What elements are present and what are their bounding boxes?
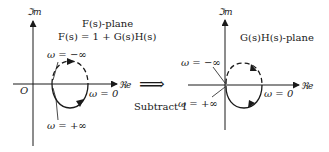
right-re-axis-label: ℜe xyxy=(301,81,313,91)
right-contour-upper-dashed xyxy=(226,63,262,85)
right-contour-lower-solid xyxy=(226,85,262,108)
left-label-omega-pos-inf: ω = +∞ xyxy=(47,120,87,131)
left-re-axis-label: ℜe xyxy=(119,80,131,90)
right-plane: ℑm ℜe G(s)H(s)-plane ω = −∞ ω = +∞ ω = 0 xyxy=(178,7,314,130)
right-leader-pos-inf xyxy=(212,87,225,97)
left-leader-neg-inf xyxy=(53,62,58,80)
right-label-omega-pos-inf: ω = +∞ xyxy=(178,98,218,109)
origin-label: O xyxy=(20,85,28,96)
left-label-omega-neg-inf: ω = −∞ xyxy=(47,49,87,60)
right-plane-title: G(s)H(s)-plane xyxy=(240,32,314,43)
left-contour-lower-solid xyxy=(52,84,88,108)
right-leader-neg-inf xyxy=(213,67,225,83)
left-label-omega-zero: ω = 0 xyxy=(89,88,119,99)
left-plane-title: F(s)-plane xyxy=(82,18,133,29)
right-label-omega-neg-inf: ω = −∞ xyxy=(181,57,221,68)
left-plane: ℑm ℜe O F(s)-plane F(s) = 1 + G(s)H(s) ω… xyxy=(13,7,156,146)
implies-arrow-icon: ⟹ xyxy=(139,73,165,94)
left-plane-equation: F(s) = 1 + G(s)H(s) xyxy=(58,31,156,42)
nyquist-diagram: ℑm ℜe O F(s)-plane F(s) = 1 + G(s)H(s) ω… xyxy=(0,0,329,152)
right-label-omega-zero: ω = 0 xyxy=(264,88,294,99)
left-im-axis-label: ℑm xyxy=(27,7,42,17)
right-im-axis-label: ℑm xyxy=(218,7,233,17)
